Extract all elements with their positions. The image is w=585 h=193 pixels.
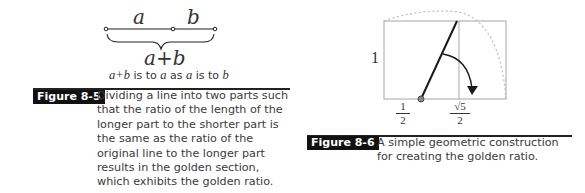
golden-rectangle-construction (0, 0, 585, 130)
arrowhead-icon (467, 86, 478, 95)
rectangle-outline (384, 21, 506, 99)
side-length-label: 1 (371, 49, 379, 67)
figure-label: Figure 8-6 (307, 136, 379, 150)
rotation-arrow-icon (443, 54, 472, 88)
diagonal-line (421, 21, 457, 99)
fraction-root5-over-2: √5 2 (450, 101, 470, 126)
figure-caption: A simple geometric construction for crea… (377, 136, 577, 165)
pivot-point-icon (418, 96, 424, 102)
fraction-half: 1 2 (396, 101, 410, 126)
